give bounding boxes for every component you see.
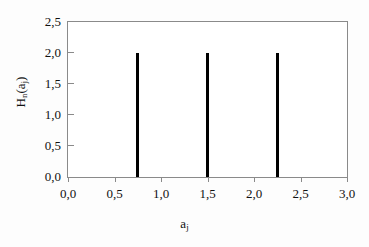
y-tick-label: 0,0 <box>30 169 61 185</box>
x-axis-tick <box>208 177 209 182</box>
y-axis-title-sub-n: n <box>19 94 29 99</box>
bar <box>206 53 209 177</box>
y-axis-title-base: H <box>13 98 28 107</box>
y-tick-label: 1,5 <box>30 76 61 92</box>
x-tick-label: 1,0 <box>141 186 181 202</box>
x-axis-tick <box>254 177 255 182</box>
x-tick-label: 0,0 <box>48 186 88 202</box>
bar <box>136 53 139 177</box>
x-tick-label: 2,0 <box>234 186 274 202</box>
x-axis-tick <box>301 177 302 182</box>
y-axis-tick <box>68 52 74 53</box>
x-axis-tick <box>161 177 162 182</box>
bar <box>276 53 279 177</box>
y-axis-tick <box>68 114 74 115</box>
x-axis-tick <box>347 177 348 182</box>
x-axis-title-sub: j <box>186 222 189 232</box>
x-tick-label: 3,0 <box>327 186 367 202</box>
plot-area <box>67 21 348 178</box>
x-tick-label: 0,5 <box>95 186 135 202</box>
y-axis-title-mid: (a <box>13 83 28 93</box>
x-axis-title: aj <box>0 216 369 232</box>
x-axis-tick <box>68 177 69 182</box>
y-axis-tick <box>68 145 74 146</box>
y-axis-tick <box>68 83 74 84</box>
y-tick-label: 2,0 <box>30 45 61 61</box>
x-axis-tick <box>115 177 116 182</box>
chart-figure: 2,5 2,0 1,5 1,0 0,5 0,0 Hn(aj) 0,0 0,5 1… <box>0 0 369 247</box>
y-tick-label: 1,0 <box>30 107 61 123</box>
y-tick-label: 0,5 <box>30 138 61 154</box>
x-tick-label: 2,5 <box>281 186 321 202</box>
y-axis-title: Hn(aj) <box>13 57 29 127</box>
y-tick-label: 2,5 <box>30 14 61 30</box>
x-tick-label: 1,5 <box>188 186 228 202</box>
